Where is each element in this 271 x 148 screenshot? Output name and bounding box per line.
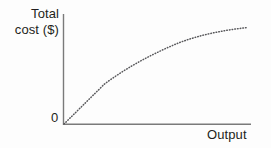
total-cost-curve	[64, 28, 248, 125]
total-cost-chart: Total cost ($) Output 0	[0, 0, 271, 148]
y-axis-label-line-1: Total	[15, 6, 59, 22]
y-axis-label: Total cost ($)	[15, 6, 59, 38]
x-axis-label: Output	[207, 127, 247, 143]
origin-label: 0	[51, 110, 58, 126]
y-axis-label-line-2: cost ($)	[15, 22, 59, 38]
